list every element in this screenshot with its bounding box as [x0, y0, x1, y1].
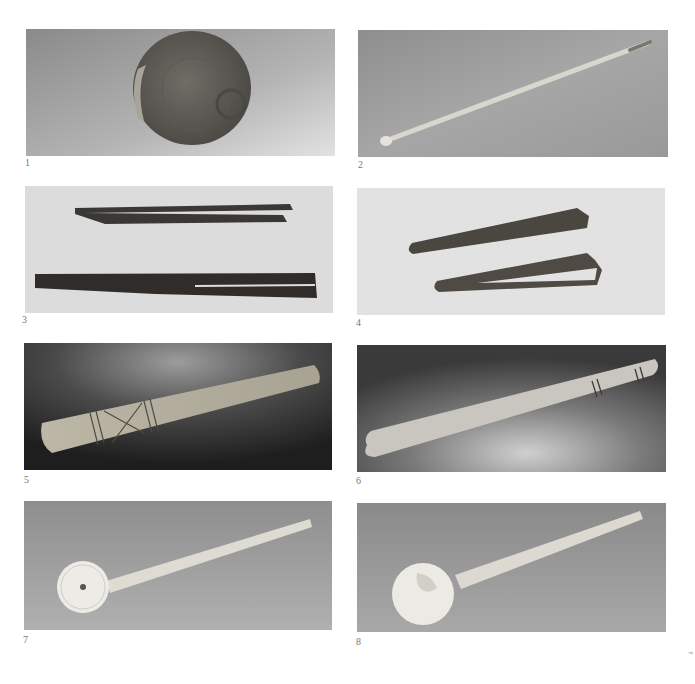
plate-8-image — [357, 503, 666, 632]
plate-7-image — [24, 501, 332, 630]
bone-probe-illustration — [358, 30, 668, 157]
bone-spoon-illustration — [24, 501, 332, 630]
bronze-tweezers-illustration — [357, 188, 665, 315]
plate-1-number: 1 — [25, 158, 30, 168]
corner-mark: ~ — [688, 648, 693, 658]
plate-6-image — [357, 345, 666, 472]
plate-5-number: 5 — [24, 475, 29, 485]
plate-4-image — [357, 188, 665, 315]
plate-7-number: 7 — [23, 635, 28, 645]
plate-2-image — [358, 30, 668, 157]
plate-5-image — [24, 343, 332, 470]
plate-2-number: 2 — [358, 160, 363, 170]
plate-4-number: 4 — [356, 318, 361, 328]
iron-tweezers-illustration — [25, 186, 333, 313]
bone-spatula-illustration — [357, 345, 666, 472]
plate-1-image — [26, 29, 335, 156]
bone-spoon-with-residue-illustration — [357, 503, 666, 632]
plate-6-number: 6 — [356, 476, 361, 486]
bronze-vessel-illustration — [26, 29, 335, 156]
plate-3-image — [25, 186, 333, 313]
plate-3-number: 3 — [22, 315, 27, 325]
plate-8-number: 8 — [356, 637, 361, 647]
incised-bone-spatula-illustration — [24, 343, 332, 470]
